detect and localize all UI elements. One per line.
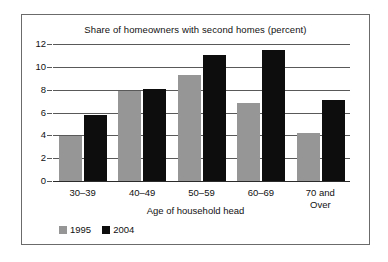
bar-1995-0[interactable] [59, 136, 82, 181]
plot-area: 024681012 30–3940–4950–5960–6970 andOver [53, 44, 350, 181]
chart-figure-frame: Share of homeowners with second homes (p… [21, 14, 370, 245]
y-tick-label-2: 2 [41, 153, 46, 163]
y-tick-mark-4 [47, 135, 52, 136]
x-tick-label-0: 30–39 [52, 187, 114, 199]
bar-2004-4[interactable] [322, 100, 345, 181]
legend-label-1995: 1995 [70, 224, 91, 235]
bar-group [53, 44, 112, 181]
legend-swatch-1995 [59, 226, 67, 234]
y-tick-mark-2 [47, 158, 52, 159]
y-tick-mark-12 [47, 44, 52, 45]
bar-1995-4[interactable] [297, 133, 320, 181]
chart-title: Share of homeowners with second homes (p… [22, 24, 369, 35]
x-tick-label-3: 60–69 [230, 187, 292, 199]
bar-group [291, 44, 350, 181]
bar-group [172, 44, 231, 181]
chart-legend: 19952004 [59, 224, 134, 235]
y-tick-label-6: 6 [41, 108, 46, 118]
y-tick-label-4: 4 [41, 131, 46, 141]
bar-2004-0[interactable] [84, 115, 107, 181]
bar-2004-1[interactable] [143, 89, 166, 181]
legend-item-2004[interactable]: 2004 [102, 224, 134, 235]
bar-1995-1[interactable] [118, 91, 141, 181]
y-tick-mark-6 [47, 113, 52, 114]
bar-1995-3[interactable] [237, 103, 260, 181]
gridline-0 [53, 181, 350, 182]
legend-item-1995[interactable]: 1995 [59, 224, 91, 235]
bar-group [112, 44, 171, 181]
legend-swatch-2004 [102, 226, 110, 234]
bars-layer [53, 44, 350, 181]
bar-2004-2[interactable] [203, 55, 226, 181]
bar-1995-2[interactable] [178, 75, 201, 181]
x-tick-label-2: 50–59 [171, 187, 233, 199]
bar-2004-3[interactable] [262, 50, 285, 181]
y-tick-label-8: 8 [41, 85, 46, 95]
x-tick-label-1: 40–49 [111, 187, 173, 199]
y-tick-label-10: 10 [35, 62, 46, 72]
legend-label-2004: 2004 [113, 224, 134, 235]
bar-group [231, 44, 290, 181]
y-tick-label-0: 0 [41, 176, 46, 186]
y-tick-label-12: 12 [35, 39, 46, 49]
y-tick-mark-10 [47, 67, 52, 68]
y-tick-mark-0 [47, 181, 52, 182]
y-tick-mark-8 [47, 90, 52, 91]
x-tick-label-4: 70 andOver [289, 187, 351, 210]
